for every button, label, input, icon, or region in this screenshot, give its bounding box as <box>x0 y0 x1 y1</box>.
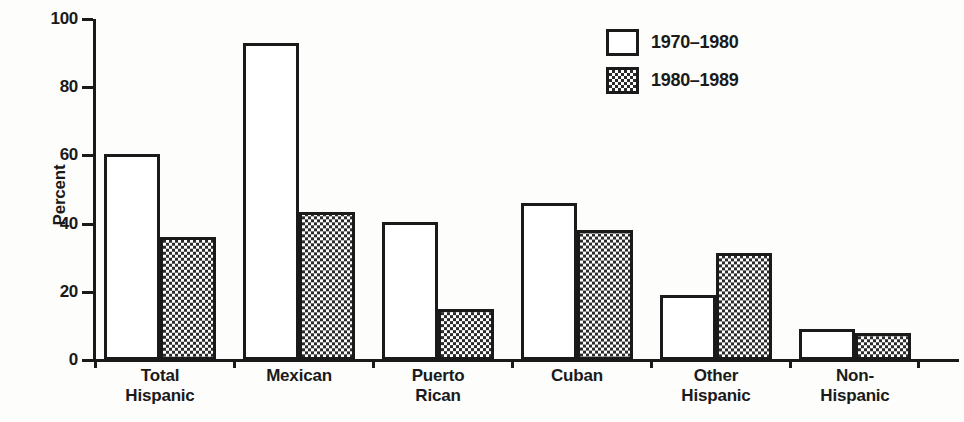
chart-legend: 1970–19801980–1989 <box>606 27 738 103</box>
bar-1-series-0 <box>243 43 299 360</box>
bar-5-series-0 <box>799 329 855 360</box>
y-axis-tick-label-100: 100 <box>6 9 78 29</box>
category-label-line: Puerto <box>362 366 514 386</box>
y-axis-tick-60 <box>82 154 93 157</box>
y-axis-tick-100 <box>82 18 93 21</box>
bar-5-series-1 <box>855 333 911 360</box>
legend-item-0: 1970–1980 <box>606 27 738 57</box>
x-axis-category-label-0: TotalHispanic <box>84 366 236 406</box>
bar-2-series-1 <box>438 309 494 360</box>
y-axis-tick-labels: 020406080100 <box>0 0 78 422</box>
legend-label-0: 1970–1980 <box>651 32 738 53</box>
y-axis-tick-40 <box>82 223 93 226</box>
category-label-line: Mexican <box>223 366 375 386</box>
category-label-line: Hispanic <box>84 386 236 406</box>
category-label-line: Non- <box>779 366 931 386</box>
bar-0-series-1 <box>160 237 216 360</box>
y-axis-tick-label-40: 40 <box>6 214 78 234</box>
bar-0-series-0 <box>104 154 160 360</box>
legend-item-1: 1980–1989 <box>606 65 738 95</box>
category-label-line: Hispanic <box>779 386 931 406</box>
legend-label-1: 1980–1989 <box>651 70 738 91</box>
bar-2-series-0 <box>382 222 438 360</box>
x-axis-category-label-1: Mexican <box>223 366 375 386</box>
y-axis-tick-label-60: 60 <box>6 145 78 165</box>
x-axis-category-label-3: Cuban <box>501 366 653 386</box>
x-axis-category-label-2: PuertoRican <box>362 366 514 406</box>
y-axis-tick-0 <box>82 359 93 362</box>
category-label-line: Hispanic <box>640 386 792 406</box>
category-label-line: Cuban <box>501 366 653 386</box>
bar-3-series-1 <box>577 230 633 360</box>
legend-swatch-0 <box>606 29 639 56</box>
category-label-line: Other <box>640 366 792 386</box>
y-axis-tick-80 <box>82 86 93 89</box>
bar-3-series-0 <box>521 203 577 360</box>
y-axis-tick-label-20: 20 <box>6 282 78 302</box>
y-axis-tick-label-80: 80 <box>6 77 78 97</box>
category-label-line: Rican <box>362 386 514 406</box>
plot-area <box>93 19 953 360</box>
bar-4-series-0 <box>660 295 716 360</box>
bar-4-series-1 <box>716 253 772 360</box>
bar-chart: Percent 020406080100 1970–19801980–1989 … <box>0 0 964 422</box>
x-axis-category-label-5: Non-Hispanic <box>779 366 931 406</box>
x-axis-category-label-4: OtherHispanic <box>640 366 792 406</box>
category-label-line: Total <box>84 366 236 386</box>
legend-swatch-1 <box>606 67 639 94</box>
y-axis-tick-label-0: 0 <box>6 350 78 370</box>
y-axis-tick-20 <box>82 291 93 294</box>
bar-1-series-1 <box>299 212 355 360</box>
